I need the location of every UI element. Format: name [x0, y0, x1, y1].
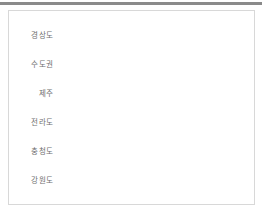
bar-row: 제주: [9, 85, 254, 103]
bar-track: [58, 85, 246, 103]
bar-track: [58, 172, 246, 190]
bar-label: 강원도: [9, 172, 53, 190]
chart-card: 경상도 수도권 제주 전라도 충청도: [8, 10, 255, 205]
bar-row: 전라도: [9, 114, 254, 132]
bar-track: [58, 27, 246, 45]
bar-row: 경상도: [9, 27, 254, 45]
bar-label: 전라도: [9, 114, 53, 132]
bar-row: 강원도: [9, 172, 254, 190]
bar-label: 제주: [9, 85, 53, 103]
bar-track: [58, 56, 246, 74]
bar-label: 경상도: [9, 27, 53, 45]
bar-track: [58, 114, 246, 132]
bar-label: 수도권: [9, 56, 53, 74]
bar-row: 충청도: [9, 143, 254, 161]
bar-track: [58, 143, 246, 161]
bar-chart-plot-area: 경상도 수도권 제주 전라도 충청도: [9, 11, 254, 204]
bar-row: 수도권: [9, 56, 254, 74]
top-divider-rule: [0, 2, 262, 5]
bar-label: 충청도: [9, 143, 53, 161]
